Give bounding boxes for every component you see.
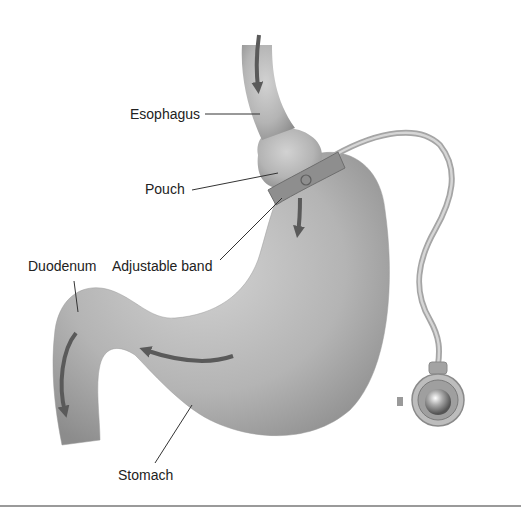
esophagus-shape <box>242 45 295 140</box>
stomach-shape <box>53 152 389 445</box>
label-esophagus: Esophagus <box>130 106 200 122</box>
arrow-esophagus-icon <box>257 35 259 88</box>
port-neck <box>429 362 447 374</box>
label-stomach: Stomach <box>118 467 173 483</box>
label-adjustable-band: Adjustable band <box>112 258 212 274</box>
port-dome <box>425 389 451 415</box>
leader-stomach <box>155 405 192 463</box>
port-tab <box>397 397 403 406</box>
bottom-divider <box>0 505 521 507</box>
label-duodenum: Duodenum <box>28 258 97 274</box>
arrow-band-icon <box>298 198 300 232</box>
gastric-band-illustration <box>0 0 521 510</box>
label-pouch: Pouch <box>145 181 185 197</box>
